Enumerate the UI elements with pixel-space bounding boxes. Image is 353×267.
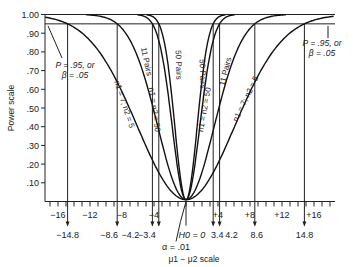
curve-label: 50 Pairs	[173, 50, 183, 80]
annotation-right-line2: β = .05	[308, 48, 336, 58]
marker-label: 14.8	[296, 230, 314, 240]
alpha-label: α = .01	[162, 242, 190, 252]
h0-label: H0 = 0	[179, 230, 206, 240]
arrow-head-icon	[157, 222, 161, 227]
power-curve-chart: 1.00.90.80.70.60.50.40.30.20.10Power sca…	[0, 0, 353, 267]
arrow-head-icon	[211, 222, 215, 227]
power-curve	[86, 15, 186, 200]
arrow-head-icon	[115, 222, 119, 227]
arrow-head-icon	[150, 222, 154, 227]
marker-label: 4.2	[225, 230, 238, 240]
y-tick-label: .20	[26, 160, 39, 170]
marker-label: −3.4	[138, 230, 156, 240]
x-tick-label: −16	[50, 210, 65, 220]
annotation-right-line1: P = .95, or	[302, 38, 342, 48]
marker-label: −14.8	[56, 230, 79, 240]
y-tick-label: .40	[26, 122, 39, 132]
annotation-left-line2: β = .05	[61, 70, 89, 80]
arrow-head-icon	[218, 222, 222, 227]
x-tick-label: +4	[213, 210, 223, 220]
curve-label: 11 Pairs	[139, 46, 154, 76]
x-tick-label: −12	[82, 210, 97, 220]
y-tick-label: .10	[26, 178, 39, 188]
x-tick-label: +16	[306, 210, 321, 220]
x-tick-label: −8	[117, 210, 127, 220]
axes	[41, 15, 335, 242]
curve-label: n1 = n2 = 50	[147, 87, 162, 133]
marker-label: −8.6	[100, 230, 118, 240]
arrow-head-icon	[302, 222, 306, 227]
marker-label: 3.4	[211, 230, 224, 240]
x-tick-label: +8	[245, 210, 255, 220]
y-tick-label: .30	[26, 141, 39, 151]
annotation-left-line1: P = .95, or	[55, 60, 95, 70]
power-curve	[186, 15, 235, 200]
curve-label: n1 = 7; n2 = 5	[231, 74, 261, 123]
arrow-head-icon	[66, 222, 70, 227]
y-axis-label: Power scale	[6, 85, 16, 132]
power-curves	[45, 15, 333, 200]
y-tick-label: .70	[26, 66, 39, 76]
x-tick-label: −4	[149, 210, 159, 220]
x-tick-label: +12	[274, 210, 289, 220]
y-tick-label: 1.00	[21, 10, 39, 20]
y-tick-label: .60	[26, 85, 39, 95]
curve-label: 50 Pairs	[197, 59, 207, 89]
marker-label: −4.2	[122, 230, 140, 240]
marker-label: 8.6	[251, 230, 264, 240]
chart-labels: 1.00.90.80.70.60.50.40.30.20.10Power sca…	[6, 10, 343, 264]
x-axis-label: μ1 − μ2 scale	[168, 254, 219, 264]
arrow-head-icon	[253, 222, 257, 227]
curve-label: n1 = 7; n2 = 5	[112, 79, 136, 129]
annotation-left-arrow	[48, 26, 62, 58]
y-tick-label: .80	[26, 47, 39, 57]
y-tick-label: .90	[26, 29, 39, 39]
y-tick-label: .50	[26, 104, 39, 114]
power-curve	[137, 15, 186, 200]
